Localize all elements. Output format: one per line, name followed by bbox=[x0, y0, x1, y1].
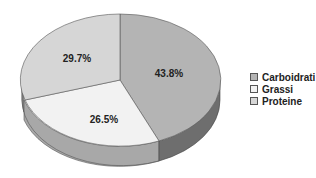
legend-item-proteine: Proteine bbox=[250, 95, 315, 107]
legend-label: Carboidrati bbox=[262, 72, 315, 83]
legend-swatch bbox=[250, 97, 258, 105]
legend-label: Grassi bbox=[262, 84, 293, 95]
legend: Carboidrati Grassi Proteine bbox=[250, 71, 315, 107]
legend-label: Proteine bbox=[262, 96, 302, 107]
label-carboidrati: 43.8% bbox=[155, 68, 183, 79]
legend-item-grassi: Grassi bbox=[250, 83, 315, 95]
label-proteine: 29.7% bbox=[63, 53, 91, 64]
pie-chart: 43.8% 26.5% 29.7% bbox=[0, 0, 230, 178]
legend-swatch bbox=[250, 85, 258, 93]
label-grassi: 26.5% bbox=[90, 114, 118, 125]
legend-item-carboidrati: Carboidrati bbox=[250, 71, 315, 83]
legend-swatch bbox=[250, 73, 258, 81]
